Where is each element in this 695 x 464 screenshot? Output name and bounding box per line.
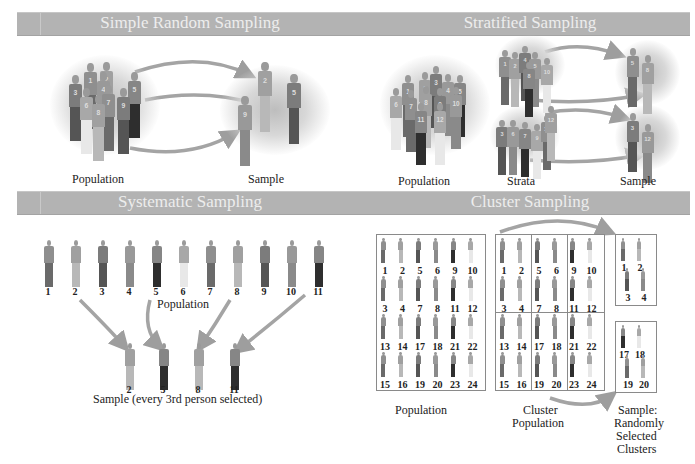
person-torso: [570, 317, 575, 326]
person-legs: [628, 142, 637, 172]
person-legs: [399, 364, 403, 377]
person-legs: [553, 326, 557, 339]
person-legs: [435, 133, 445, 165]
person-figure: [499, 276, 506, 302]
person-torso: [194, 349, 204, 366]
person-legs: [315, 263, 322, 287]
person-number-label: 10: [583, 265, 601, 276]
person-torso: [44, 246, 54, 263]
person-figure: [587, 276, 594, 302]
person-figure: 5: [285, 74, 303, 146]
person-torso: [641, 271, 646, 279]
person-number-label: 4: [513, 303, 531, 314]
person-figure: [398, 314, 405, 340]
person-legs: [500, 288, 504, 301]
person-legs: [535, 326, 539, 339]
person-legs: [153, 263, 160, 287]
person-head: [105, 85, 112, 94]
person-torso: [159, 349, 169, 366]
person-number-tag: 8: [642, 67, 654, 73]
person-torso: [517, 241, 522, 250]
person-torso: [468, 241, 473, 250]
person-legs: [207, 263, 214, 287]
person-legs: [416, 364, 420, 377]
person-legs: [535, 288, 539, 301]
person-torso: [416, 355, 421, 364]
person-torso: [625, 271, 630, 279]
person-number-label: 7: [411, 303, 429, 314]
person-figure: 10: [448, 87, 464, 151]
person-torso: [570, 279, 575, 288]
person-figure: [232, 240, 244, 288]
person-figure: [552, 238, 559, 264]
person-legs: [535, 364, 539, 377]
person-number-label: 10: [282, 286, 300, 297]
person-head: [290, 74, 297, 83]
person-legs: [469, 250, 473, 263]
person-head: [405, 75, 411, 83]
person-number-label: 8: [548, 303, 566, 314]
person-number-tag: 2: [258, 76, 272, 85]
person-number-label: 18: [548, 341, 566, 352]
person-legs: [434, 250, 438, 263]
person-torso: [535, 355, 540, 364]
person-torso: [433, 317, 438, 326]
person-figure: [640, 268, 646, 292]
person-figure: [398, 276, 405, 302]
person-figure: [380, 238, 387, 264]
person-number-label: 15: [495, 379, 513, 390]
person-legs: [637, 336, 641, 348]
person-figure: [415, 276, 422, 302]
person-torso: [637, 328, 642, 336]
person-torso: [125, 349, 135, 366]
person-legs: [93, 127, 103, 161]
person-number-label: 11: [565, 303, 583, 314]
person-legs: [570, 364, 574, 377]
person-head: [548, 106, 554, 113]
person-legs: [469, 326, 473, 339]
person-figure: [587, 314, 594, 340]
person-number-label: 11: [446, 303, 464, 314]
person-number-label: 2: [394, 265, 412, 276]
person-legs: [416, 326, 420, 339]
person-figure: [569, 276, 576, 302]
person-legs: [621, 336, 625, 348]
person-figure: [286, 240, 298, 288]
person-figure: [569, 352, 576, 378]
person-torso: [552, 355, 557, 364]
person-figure: [450, 314, 457, 340]
person-torso: [381, 241, 386, 250]
person-figure: [398, 238, 405, 264]
person-number-tag: 3: [627, 125, 639, 131]
person-figure: [534, 352, 541, 378]
person-legs: [588, 326, 592, 339]
person-number-label: 6: [548, 265, 566, 276]
cluster-sample-label-line4: Clusters: [617, 442, 656, 457]
person-head: [534, 124, 540, 131]
stratified-strata-label: Strata: [507, 174, 535, 189]
person-number-label: 18: [429, 341, 447, 352]
person-figure: [587, 352, 594, 378]
person-figure: 9: [236, 96, 254, 168]
person-torso: [535, 241, 540, 250]
person-number-label: 9: [565, 265, 583, 276]
person-legs: [289, 108, 300, 144]
person-number-tag: 9: [238, 110, 252, 119]
person-figure: 8: [522, 62, 536, 118]
person-figure: [205, 240, 217, 288]
person-legs: [391, 118, 401, 150]
person-figure: [151, 240, 163, 288]
person-number-label: 12: [583, 303, 601, 314]
person-figure: [415, 352, 422, 378]
person-torso: [398, 317, 403, 326]
person-number-label: 20: [429, 379, 447, 390]
person-number-label: 23: [565, 379, 583, 390]
systematic-population-label: Population: [157, 297, 209, 312]
person-number-label: 24: [583, 379, 601, 390]
person-head: [645, 55, 651, 63]
person-torso: [621, 328, 626, 336]
person-legs: [381, 250, 385, 263]
person-figure: [640, 355, 646, 379]
person-number-label: 16: [394, 379, 412, 390]
person-number-label: 20: [548, 379, 566, 390]
